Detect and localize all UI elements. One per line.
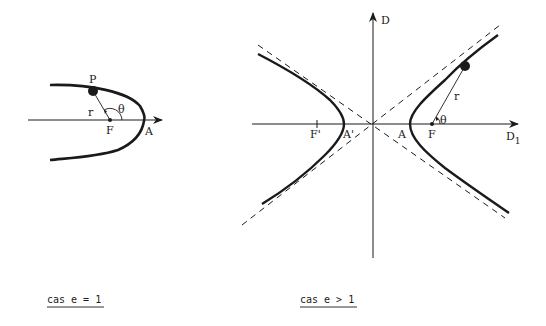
asymptote-ascending bbox=[242, 25, 500, 225]
parabola-radius-line bbox=[93, 91, 110, 120]
parabola-point-p bbox=[88, 86, 98, 96]
hyperbola-point bbox=[460, 61, 470, 71]
label-r: r bbox=[88, 106, 94, 119]
label-theta: θ bbox=[118, 103, 125, 116]
label-f-prime: F' bbox=[310, 128, 321, 141]
label-theta: θ bbox=[440, 114, 447, 127]
label-p: P bbox=[89, 73, 97, 86]
asymptote-descending bbox=[258, 45, 505, 218]
conic-sections-figure: P r θ F A D D1 F' A' A F r θ cas e = 1 bbox=[0, 0, 546, 326]
hyperbola-focus-dot bbox=[430, 122, 434, 126]
caption-parabola: cas e = 1 bbox=[47, 294, 101, 305]
label-a-prime: A' bbox=[342, 128, 354, 141]
label-f: F bbox=[428, 128, 436, 141]
parabola-focus-dot bbox=[108, 118, 112, 122]
label-d: D bbox=[381, 14, 390, 27]
label-a: A bbox=[144, 125, 154, 138]
parabola-diagram: P r θ F A bbox=[28, 73, 162, 160]
label-d1: D1 bbox=[506, 130, 521, 146]
caption-hyperbola: cas e > 1 bbox=[300, 294, 354, 305]
hyperbola-diagram: D D1 F' A' A F r θ bbox=[242, 13, 521, 258]
hyperbola-left-branch bbox=[258, 54, 344, 204]
captions: cas e = 1 cas e > 1 bbox=[47, 294, 357, 307]
parabola-curve bbox=[50, 85, 145, 160]
label-f: F bbox=[106, 124, 114, 137]
label-r: r bbox=[454, 90, 460, 103]
label-a: A bbox=[397, 128, 407, 141]
